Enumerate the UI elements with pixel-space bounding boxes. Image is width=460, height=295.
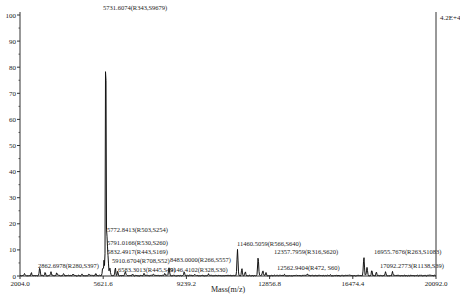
peak-labels: 2862.6978(R280,S397)5731.6074(R343,S9679… [38,4,444,274]
peak-label: 17092.2773(R1138,S39) [380,262,444,270]
y-tick-label: 30 [9,194,17,202]
x-tick-label: 12856.8 [258,280,281,288]
peak-label: 5772.8413(R503,S254) [107,226,168,234]
y-tick-label: 80 [9,64,17,72]
peak-label: 2862.6978(R280,S397) [38,262,99,270]
peak-label: 5832.4917(R443,S169) [107,248,168,256]
peak-label: 5910.6704(R708,S52) [112,257,170,265]
y-tick-label: 60 [9,116,17,124]
axes [20,12,436,276]
y-tick-label: 70 [9,90,17,98]
x-tick-label: 16474.4 [341,280,364,288]
y-tick-label: 20 [9,220,17,228]
peak-label: 12357.7959(R316,S620) [274,248,338,256]
peak-label: 5791.0166(R530,S260) [107,239,168,247]
peak-label: 5731.6074(R343,S9679) [103,4,167,12]
y-tick-label: 10 [9,246,17,254]
peak-label: 11460.5059(R566,S640) [237,240,301,248]
max-intensity-label: 4.2E+4 [440,14,460,22]
y-axis-ticks: 0102030405060708090100 [6,12,21,281]
peak-label: 8483.0000(R266,S557) [170,256,231,264]
peak-label: 6583.3013(R445,S49) [118,266,176,274]
x-tick-label: 5621.6 [94,280,114,288]
peak-label: 9146.4102(R328,S30) [170,266,228,274]
mass-spectrum-chart: 0102030405060708090100 2004.05621.69239.… [0,0,460,295]
peak-label: 12562.9404(R472, S60) [277,264,340,272]
y-tick-label: 100 [6,12,17,20]
spectrum-trace [20,72,436,276]
x-tick-label: 2004.0 [10,280,30,288]
y-tick-label: 90 [9,38,17,46]
peak-label: 16955.7676(R263,S1083) [374,248,442,256]
x-axis-label: Mass(m/z) [211,285,246,294]
x-tick-label: 20092.0 [425,280,448,288]
y-tick-label: 50 [9,142,17,150]
x-tick-label: 9239.2 [177,280,197,288]
y-tick-label: 40 [9,168,17,176]
